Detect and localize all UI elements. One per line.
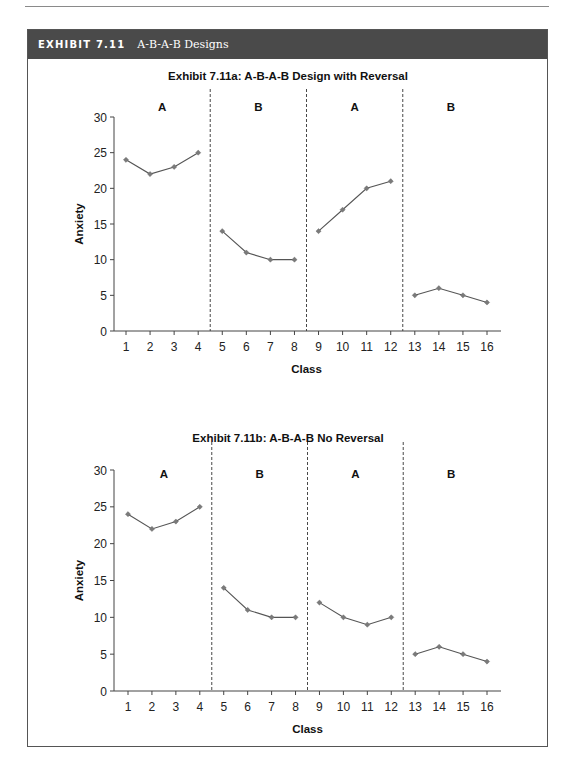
x-tick-label: 1	[125, 700, 132, 714]
data-point-marker	[125, 512, 130, 517]
x-tick-label: 5	[219, 340, 226, 354]
data-line	[319, 181, 391, 231]
y-tick-label: 10	[94, 253, 108, 267]
x-tick-label: 7	[267, 340, 274, 354]
y-tick-label: 0	[100, 325, 107, 339]
data-point-marker	[484, 659, 489, 664]
charts-canvas: Exhibit 7.11a: A-B-A-B Design with Rever…	[0, 0, 577, 773]
x-tick-label: 15	[456, 700, 470, 714]
data-point-marker	[269, 615, 274, 620]
x-tick-label: 5	[220, 700, 227, 714]
x-tick-label: 13	[408, 340, 422, 354]
phase-label: B	[447, 101, 455, 113]
y-tick-label: 30	[94, 464, 108, 478]
data-point-marker	[317, 600, 322, 605]
y-tick-label: 5	[100, 289, 107, 303]
x-tick-label: 3	[173, 700, 180, 714]
data-point-marker	[123, 157, 128, 162]
y-tick-label: 20	[94, 537, 108, 551]
x-tick-label: 6	[244, 700, 251, 714]
phase-label: A	[160, 468, 168, 480]
data-point-marker	[293, 615, 298, 620]
phase-label: A	[351, 468, 359, 480]
x-tick-label: 3	[171, 340, 178, 354]
chart-title: Exhibit 7.11b: A-B-A-B No Reversal	[192, 432, 383, 444]
x-tick-label: 9	[316, 700, 323, 714]
x-tick-label: 10	[337, 700, 351, 714]
x-axis-label: Class	[292, 723, 323, 735]
x-tick-label: 1	[123, 340, 130, 354]
x-tick-label: 6	[243, 340, 250, 354]
phase-label: B	[447, 468, 455, 480]
data-point-marker	[268, 257, 273, 262]
y-tick-label: 0	[100, 685, 107, 699]
phase-label: B	[254, 101, 262, 113]
y-tick-label: 15	[94, 218, 108, 232]
x-tick-label: 11	[360, 340, 373, 354]
data-line	[415, 647, 487, 662]
data-point-marker	[197, 504, 202, 509]
x-tick-label: 16	[480, 700, 494, 714]
y-tick-label: 10	[94, 611, 108, 625]
data-point-marker	[196, 150, 201, 155]
data-point-marker	[365, 622, 370, 627]
x-tick-label: 16	[480, 340, 494, 354]
data-point-marker	[437, 644, 442, 649]
data-point-marker	[436, 286, 441, 291]
x-tick-label: 8	[292, 700, 299, 714]
y-tick-label: 30	[94, 111, 108, 125]
data-point-marker	[149, 526, 154, 531]
data-point-marker	[460, 652, 465, 657]
x-tick-label: 14	[432, 340, 446, 354]
x-tick-label: 2	[147, 340, 154, 354]
x-tick-label: 11	[361, 700, 374, 714]
x-tick-label: 2	[149, 700, 156, 714]
data-line	[415, 288, 487, 302]
data-point-marker	[460, 293, 465, 298]
x-tick-label: 12	[385, 700, 399, 714]
y-axis-label: Anxiety	[73, 203, 85, 245]
chart-no-reversal: Exhibit 7.11b: A-B-A-B No Reversal051015…	[73, 432, 501, 735]
chart-title: Exhibit 7.11a: A-B-A-B Design with Rever…	[168, 70, 408, 82]
x-tick-label: 15	[456, 340, 470, 354]
x-tick-label: 4	[195, 340, 202, 354]
y-tick-label: 25	[94, 500, 108, 514]
x-tick-label: 7	[268, 700, 275, 714]
x-axis-label: Class	[291, 363, 322, 375]
x-tick-label: 14	[432, 700, 446, 714]
data-line	[319, 603, 391, 625]
y-tick-label: 25	[94, 146, 108, 160]
data-point-marker	[173, 519, 178, 524]
x-tick-label: 10	[336, 340, 350, 354]
x-tick-label: 13	[409, 700, 423, 714]
x-tick-label: 8	[291, 340, 298, 354]
data-point-marker	[484, 300, 489, 305]
y-tick-label: 5	[100, 648, 107, 662]
data-line	[222, 231, 294, 260]
phase-label: B	[255, 468, 263, 480]
x-tick-label: 4	[196, 700, 203, 714]
data-line	[128, 507, 200, 529]
data-point-marker	[388, 179, 393, 184]
data-point-marker	[147, 171, 152, 176]
phase-label: A	[350, 101, 358, 113]
phase-label: A	[158, 101, 166, 113]
data-point-marker	[172, 164, 177, 169]
data-point-marker	[413, 652, 418, 657]
y-axis-label: Anxiety	[73, 559, 85, 601]
data-line	[224, 588, 296, 617]
y-tick-label: 20	[94, 182, 108, 196]
data-point-marker	[389, 615, 394, 620]
chart-reversal: Exhibit 7.11a: A-B-A-B Design with Rever…	[73, 70, 501, 375]
x-tick-label: 12	[384, 340, 398, 354]
data-line	[126, 153, 198, 174]
data-point-marker	[412, 293, 417, 298]
y-tick-label: 15	[94, 574, 108, 588]
x-tick-label: 9	[315, 340, 322, 354]
data-point-marker	[292, 257, 297, 262]
data-point-marker	[341, 615, 346, 620]
